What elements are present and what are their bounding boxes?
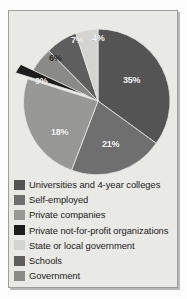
legend-item-self-employed[interactable]: Self-employed: [12, 192, 175, 207]
chart-legend: Universities and 4-year colleges Self-em…: [12, 177, 175, 283]
pie-label-universities-and-4-year-colleges: 35%: [123, 75, 140, 85]
pie-label-self-employed: 21%: [102, 139, 119, 149]
pie-label-schools: 7%: [71, 35, 84, 45]
pie-label-state-or-local-government: 4%: [92, 33, 105, 43]
pie-label-private-not-for-profit-organizations: 9%: [35, 76, 48, 86]
legend-swatch-icon: [14, 225, 25, 235]
legend-item-schools[interactable]: Schools: [12, 253, 175, 268]
legend-item-label: Private not-for-profit organizations: [29, 225, 168, 236]
pie-chart-figure: 35% 21% 18% 9% 6% 7% 4% Universities and…: [0, 0, 187, 299]
legend-item-private-companies[interactable]: Private companies: [12, 207, 175, 222]
legend-swatch-icon: [14, 240, 25, 250]
legend-swatch-icon: [14, 210, 25, 220]
legend-item-label: Universities and 4-year colleges: [29, 179, 160, 190]
legend-item-government[interactable]: Government: [12, 268, 175, 283]
legend-item-label: Government: [29, 270, 80, 281]
legend-swatch-icon: [14, 195, 25, 205]
legend-item-label: Schools: [29, 255, 62, 266]
pie-label-private-companies: 18%: [51, 127, 68, 137]
legend-item-label: Private companies: [29, 209, 105, 220]
legend-item-label: State or local government: [29, 240, 135, 251]
legend-item-state-or-local-government[interactable]: State or local government: [12, 238, 175, 253]
legend-item-private-not-for-profit-organizations[interactable]: Private not-for-profit organizations: [12, 223, 175, 238]
legend-swatch-icon: [14, 271, 25, 281]
legend-item-universities-and-4-year-colleges[interactable]: Universities and 4-year colleges: [12, 177, 175, 192]
legend-swatch-icon: [14, 256, 25, 266]
pie-chart-plot-area: 35% 21% 18% 9% 6% 7% 4%: [9, 11, 177, 179]
pie-label-government: 6%: [49, 53, 62, 63]
legend-item-label: Self-employed: [29, 194, 88, 205]
figure-frame: 35% 21% 18% 9% 6% 7% 4% Universities and…: [8, 10, 178, 288]
legend-swatch-icon: [14, 180, 25, 190]
